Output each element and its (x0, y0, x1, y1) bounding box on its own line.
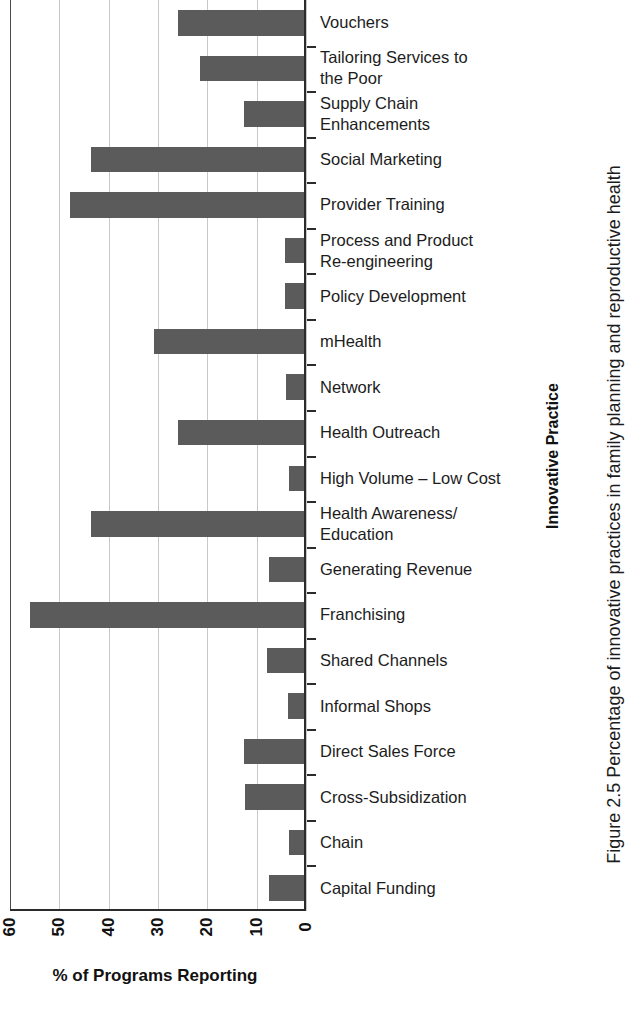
category-tick (307, 592, 316, 594)
category-label: Shared Channels (320, 650, 570, 671)
bar (245, 784, 306, 810)
bar-row (10, 56, 306, 82)
category-tick (307, 364, 316, 366)
bar-row (10, 329, 306, 355)
bar (178, 10, 306, 36)
category-label: Vouchers (320, 12, 570, 33)
bar-row (10, 648, 306, 674)
category-label: Health Awareness/ Education (320, 503, 570, 545)
bar-row (10, 238, 306, 264)
category-tick (307, 547, 316, 549)
figure-caption-text: Figure 2.5 Percentage of innovative prac… (604, 165, 625, 863)
chart-plot-area (10, 0, 306, 911)
category-tick (307, 91, 316, 93)
category-tick (307, 319, 316, 321)
x-axis-tick-labels: 6050403020100 (0, 911, 320, 973)
figure-caption: Figure 2.5 Percentage of innovative prac… (590, 0, 639, 1029)
bar-row (10, 374, 306, 400)
value-axis-line (304, 0, 306, 911)
bar-row (10, 147, 306, 173)
bar (91, 511, 306, 537)
bar-row (10, 830, 306, 856)
x-tick-label: 20 (197, 917, 217, 937)
bar-row (10, 557, 306, 583)
x-tick-label: 60 (0, 917, 20, 937)
bar (154, 329, 306, 355)
category-tick (307, 820, 316, 822)
category-label: Direct Sales Force (320, 741, 570, 762)
category-tick (307, 410, 316, 412)
category-labels: VouchersTailoring Services to the PoorSu… (320, 0, 570, 911)
x-tick-label: 30 (148, 917, 168, 937)
bar-row (10, 784, 306, 810)
bar (285, 238, 306, 264)
category-label: Cross-Subsidization (320, 787, 570, 808)
x-tick-label: 10 (247, 917, 267, 937)
bar (91, 147, 306, 173)
bar-row (10, 420, 306, 446)
category-label: Capital Funding (320, 878, 570, 899)
category-label: Franchising (320, 604, 570, 625)
bar-row (10, 511, 306, 537)
bar (200, 56, 306, 82)
bar-row (10, 602, 306, 628)
figure-container: VouchersTailoring Services to the PoorSu… (0, 0, 639, 1029)
category-label: Generating Revenue (320, 559, 570, 580)
category-label: Network (320, 377, 570, 398)
bar (267, 648, 306, 674)
bar-row (10, 101, 306, 127)
category-tick (307, 137, 316, 139)
bar (244, 101, 306, 127)
bar-row (10, 875, 306, 901)
category-tick (307, 501, 316, 503)
y-axis-title: Innovative Practice (540, 0, 566, 911)
category-label: Policy Development (320, 286, 570, 307)
bar-row (10, 466, 306, 492)
bar-row (10, 693, 306, 719)
bar (70, 192, 306, 218)
y-axis-title-text: Innovative Practice (544, 383, 562, 529)
category-label: Process and Product Re-engineering (320, 230, 570, 272)
category-tick (307, 729, 316, 731)
bar-row (10, 739, 306, 765)
bar-row (10, 283, 306, 309)
category-label: Chain (320, 832, 570, 853)
x-tick-label: 40 (99, 917, 119, 937)
category-label: Provider Training (320, 194, 570, 215)
category-label: Health Outreach (320, 422, 570, 443)
bars-layer (10, 0, 306, 911)
bar (269, 557, 306, 583)
category-label: High Volume – Low Cost (320, 468, 570, 489)
category-tick (307, 273, 316, 275)
category-tick (307, 228, 316, 230)
x-tick-label: 50 (49, 917, 69, 937)
category-tick (307, 46, 316, 48)
bar-row (10, 10, 306, 36)
category-tick (307, 638, 316, 640)
x-tick-label: 0 (296, 917, 316, 937)
bar (178, 420, 306, 446)
category-label: mHealth (320, 331, 570, 352)
category-label: Informal Shops (320, 696, 570, 717)
category-tick (307, 182, 316, 184)
category-label: Tailoring Services to the Poor (320, 47, 570, 89)
bar (244, 739, 306, 765)
category-tick (307, 683, 316, 685)
bar-row (10, 192, 306, 218)
category-label: Social Marketing (320, 149, 570, 170)
category-tick (307, 865, 316, 867)
bar (30, 602, 306, 628)
category-tick (307, 774, 316, 776)
category-tick (307, 456, 316, 458)
x-axis-title: % of Programs Reporting (0, 966, 310, 986)
bar (269, 875, 306, 901)
category-label: Supply Chain Enhancements (320, 93, 570, 135)
bar (285, 283, 306, 309)
